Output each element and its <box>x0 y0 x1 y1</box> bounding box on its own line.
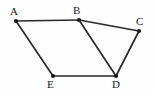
edge-cd <box>116 31 139 76</box>
edge-ab <box>16 20 79 21</box>
vertex-label-b: B <box>73 5 80 16</box>
vertex-label-a: A <box>10 6 18 17</box>
vertex-label-c: C <box>136 16 143 27</box>
geometry-figure: ABCDE <box>0 0 154 95</box>
edge-bd <box>79 20 116 76</box>
vertex-point-b <box>77 18 81 22</box>
vertex-label-e: E <box>47 79 54 90</box>
vertex-point-a <box>14 19 18 23</box>
vertex-label-d: D <box>112 79 120 90</box>
vertices-group <box>14 18 141 78</box>
edges-group <box>16 20 139 76</box>
edge-ea <box>16 21 53 76</box>
vertex-point-c <box>137 29 141 33</box>
edge-bc <box>79 20 139 31</box>
